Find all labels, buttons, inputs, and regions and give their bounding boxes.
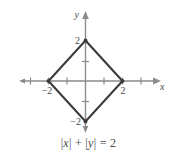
caption-value: 2 [110, 136, 116, 150]
y-axis-arrow-up-icon [82, 11, 89, 19]
x-axis-arrow-left-icon [19, 78, 25, 83]
caption-equals: = [96, 136, 110, 150]
y-tick-label-2: 2 [75, 35, 80, 46]
x-tick-label-2: 2 [121, 85, 126, 96]
y-tick-label-neg2: −2 [70, 116, 81, 127]
caption-plus: + [72, 136, 86, 150]
figure-container: y x 2 −2 −2 2 |x| + |y| = 2 [0, 0, 177, 159]
x-axis-label: x [159, 81, 165, 92]
vertex-right [121, 79, 125, 83]
vertex-bottom [84, 120, 88, 124]
vertex-left [47, 79, 51, 83]
y-axis-label: y [74, 9, 80, 20]
figure-caption: |x| + |y| = 2 [0, 136, 177, 151]
y-axis-arrow-down-icon [83, 126, 88, 133]
x-tick-label-neg2: −2 [42, 85, 53, 96]
vertex-top [84, 39, 88, 43]
